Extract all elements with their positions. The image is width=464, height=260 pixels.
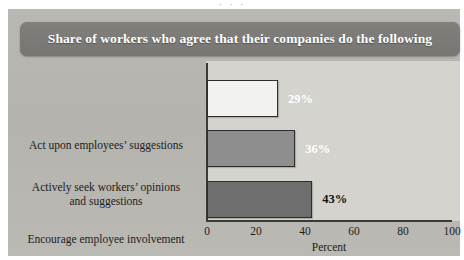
bar-act-upon-suggestions	[207, 80, 278, 117]
bar-value-label: 29%	[288, 92, 313, 107]
x-tick-label: 20	[236, 225, 276, 237]
bar-encourage-involvement	[207, 181, 312, 218]
chart-panel: Share of workers who agree that their co…	[8, 9, 460, 256]
category-label-actively-seek-opinions: Actively seek workers’ opinions and sugg…	[18, 181, 194, 208]
category-label-line: Act upon employees’ suggestions	[29, 139, 183, 151]
chart-title-banner: Share of workers who agree that their co…	[20, 22, 460, 56]
chart-title: Share of workers who agree that their co…	[20, 31, 460, 47]
x-axis-title: Percent	[206, 241, 452, 253]
category-label-encourage-involvement: Encourage employee involvement	[18, 233, 194, 247]
category-label-line: Encourage employee involvement	[27, 233, 184, 245]
chart-figure: · · · Share of workers who agree that th…	[0, 0, 464, 260]
x-tick-label: 100	[432, 225, 464, 237]
bar-value-label: 43%	[322, 192, 347, 207]
category-label-act-upon-suggestions: Act upon employees’ suggestions	[18, 139, 194, 153]
x-tick-label: 60	[334, 225, 374, 237]
category-label-column: Act upon employees’ suggestions Actively…	[20, 61, 200, 221]
clipped-caption-row: · · ·	[0, 0, 464, 9]
x-axis-line	[206, 220, 452, 222]
x-tick-label: 40	[285, 225, 325, 237]
x-tick-label: 0	[187, 225, 227, 237]
x-tick-label: 80	[383, 225, 423, 237]
bar-value-label: 36%	[305, 142, 330, 157]
bar-actively-seek-opinions	[207, 130, 295, 167]
category-label-line: Actively seek workers’ opinions	[32, 181, 180, 193]
chart-plot-area: Act upon employees’ suggestions Actively…	[20, 61, 460, 260]
category-label-line: and suggestions	[18, 195, 194, 209]
